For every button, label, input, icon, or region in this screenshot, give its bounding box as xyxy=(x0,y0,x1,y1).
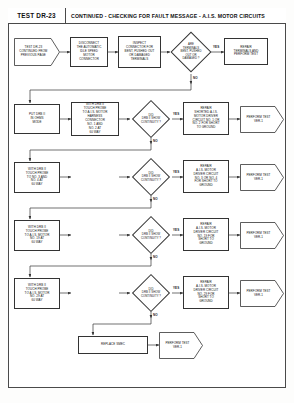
terminator-perform-test-ver1-row4[interactable]: PERFORM TEST VER-1 xyxy=(240,222,284,249)
node-label: PERFORM TEST VER-1 xyxy=(246,290,277,298)
node-put-drb-in-ohms-mode[interactable]: PUT DRB II IN OHMS MODE xyxy=(14,104,60,134)
decision-continuity-pins-1-2[interactable]: DID DRB II SHOW CONTINUITY ? xyxy=(130,99,172,139)
node-label: REPAIR SHORTED A.I.S. MOTOR DRIVER CIRCU… xyxy=(192,107,219,131)
node-label: REPLACE SMEC xyxy=(101,343,125,347)
test-id-label: TEST DR-23 xyxy=(8,8,66,23)
branch-label-no-terminals: NO xyxy=(193,76,198,80)
branch-label-yes-pin-29: YES xyxy=(173,286,179,290)
page-title: CONTINUED - CHECKING FOR FAULT MESSAGE -… xyxy=(66,8,286,23)
decision-continuity-pin-19[interactable]: DID DRB II SHOW CONTINUITY ? xyxy=(130,215,172,255)
branch-label-no-pin-19: NO xyxy=(153,255,158,259)
node-label: PERFORM TEST VER-1 xyxy=(165,342,196,350)
node-probe-ais-pins-3-4[interactable]: WITH DRB II TOUCH PROBE TO NO. 3 AND NO.… xyxy=(14,162,60,193)
node-label: PERFORM TEST VER-1 xyxy=(246,232,277,240)
node-inspect-connector-terminals[interactable]: INSPECT CONNECTOR FOR BENT, PUSHED OUT O… xyxy=(118,36,161,68)
node-probe-ais-pin-29[interactable]: WITH DRB II TOUCH PROBE TO A.I.S. MOTOR … xyxy=(14,278,60,309)
node-label: REPAIR A.I.S. MOTOR DRIVER CIRCUIT NO. 1… xyxy=(193,223,218,247)
node-label: WITH DRB II TOUCH PROBE TO A.I.S. MOTOR … xyxy=(83,103,108,135)
node-label: DID DRB II SHOW CONTINUITY ? xyxy=(141,172,161,183)
decision-continuity-pins-3-4[interactable]: DID DRB II SHOW CONTINUITY ? xyxy=(130,157,172,197)
node-repair-short-pin-29[interactable]: REPAIR A.I.S. MOTOR DRIVER CIRCUIT NO. 2… xyxy=(183,276,229,309)
decision-terminals-damaged[interactable]: ARE TERMINALS BENT, PUSHED OUT OR DAMAGE… xyxy=(170,30,212,74)
node-label: INSPECT CONNECTOR FOR BENT, PUSHED OUT O… xyxy=(125,42,155,62)
node-label: WITH DRB II TOUCH PROBE TO NO. 3 AND NO.… xyxy=(26,168,49,188)
node-probe-ais-pins-1-2[interactable]: WITH DRB II TOUCH PROBE TO A.I.S. MOTOR … xyxy=(71,102,119,136)
node-label: REPAIR A.I.S. MOTOR DRIVER CIRCUIT NO. 2… xyxy=(193,281,218,305)
page-header: TEST DR-23 CONTINUED - CHECKING FOR FAUL… xyxy=(8,8,286,24)
terminator-perform-test-ver1-final[interactable]: PERFORM TEST VER-1 xyxy=(159,332,203,359)
node-label: DID DRB II SHOW CONTINUITY ? xyxy=(141,114,161,125)
branch-label-yes-pins-1-2: YES xyxy=(173,112,179,116)
node-label: TEST DR-23 CONTINUED FROM PREVIOUS PAGE xyxy=(19,46,55,58)
branch-label-no-pins-1-2: NO xyxy=(153,139,158,143)
node-label: DID DRB II SHOW CONTINUITY ? xyxy=(141,288,161,299)
node-label: PUT DRB II IN OHMS MODE xyxy=(29,113,45,125)
node-repair-short-pins-1-2[interactable]: REPAIR SHORTED A.I.S. MOTOR DRIVER CIRCU… xyxy=(183,102,229,135)
branch-label-yes-terminals: YES xyxy=(213,45,219,49)
node-test-continued-from-previous-page[interactable]: TEST DR-23 CONTINUED FROM PREVIOUS PAGE xyxy=(14,38,60,66)
node-label: REPAIR A.I.S. MOTOR DRIVER CIRCUIT NO. 3… xyxy=(193,165,218,189)
node-probe-ais-pin-19[interactable]: WITH DRB II TOUCH PROBE TO A.I.S. MOTOR … xyxy=(14,220,60,251)
node-label: WITH DRB II TOUCH PROBE TO A.I.S. MOTOR … xyxy=(25,226,50,246)
terminator-perform-test-ver1-row2[interactable]: PERFORM TEST VER-1 xyxy=(240,106,284,133)
node-disconnect-ais-motor-connector[interactable]: DISCONNECT THE AUTOMATIC IDLE SPEED MOTO… xyxy=(70,37,108,67)
node-label: PERFORM TEST VER-1 xyxy=(246,116,277,124)
node-label: DID DRB II SHOW CONTINUITY ? xyxy=(141,230,161,241)
branch-label-no-pin-29: NO xyxy=(153,313,158,317)
flowchart: TEST DR-23 CONTINUED FROM PREVIOUS PAGE … xyxy=(8,24,286,388)
node-label: DISCONNECT THE AUTOMATIC IDLE SPEED MOTO… xyxy=(77,42,102,62)
node-label: WITH DRB II TOUCH PROBE TO A.I.S. MOTOR … xyxy=(25,284,50,304)
node-repair-short-pin-19[interactable]: REPAIR A.I.S. MOTOR DRIVER CIRCUIT NO. 1… xyxy=(183,218,229,251)
decision-continuity-pin-29[interactable]: DID DRB II SHOW CONTINUITY ? xyxy=(130,273,172,313)
node-repair-short-pins-3-4[interactable]: REPAIR A.I.S. MOTOR DRIVER CIRCUIT NO. 3… xyxy=(183,160,229,193)
page-canvas: TEST DR-23 CONTINUED - CHECKING FOR FAUL… xyxy=(0,0,294,403)
branch-label-no-pins-3-4: NO xyxy=(153,197,158,201)
node-repair-terminals-and-perform-test[interactable]: REPAIR TERMINALS AND PERFORM TEST xyxy=(224,38,268,65)
terminator-perform-test-ver1-row3[interactable]: PERFORM TEST VER-1 xyxy=(240,164,284,191)
branch-label-yes-pins-3-4: YES xyxy=(173,170,179,174)
node-label: ARE TERMINALS BENT, PUSHED OUT OR DAMAGE… xyxy=(181,43,202,61)
flowchart-connectors xyxy=(8,24,286,388)
terminator-perform-test-ver1-row5[interactable]: PERFORM TEST VER-1 xyxy=(240,280,284,307)
node-label: REPAIR TERMINALS AND PERFORM TEST xyxy=(234,46,259,58)
branch-label-yes-pin-19: YES xyxy=(173,228,179,232)
node-label: PERFORM TEST VER-1 xyxy=(246,174,277,182)
node-replace-smec[interactable]: REPLACE SMEC xyxy=(78,336,148,354)
